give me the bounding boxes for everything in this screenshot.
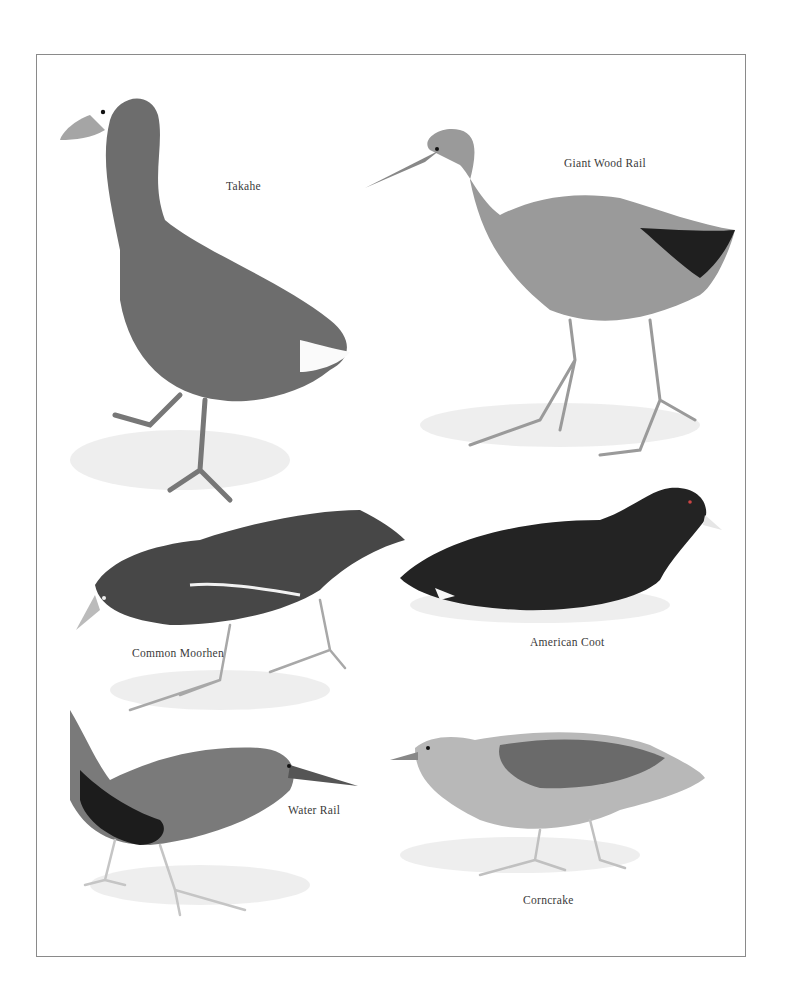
label-giant-wood-rail: Giant Wood Rail [564, 157, 646, 169]
american-coot-illustration [400, 488, 722, 610]
label-takahe: Takahe [226, 180, 261, 192]
bird-illustrations [0, 0, 789, 1007]
label-american-coot: American Coot [530, 636, 604, 648]
label-common-moorhen: Common Moorhen [132, 647, 224, 659]
label-water-rail: Water Rail [288, 804, 340, 816]
label-corncrake: Corncrake [523, 894, 574, 906]
